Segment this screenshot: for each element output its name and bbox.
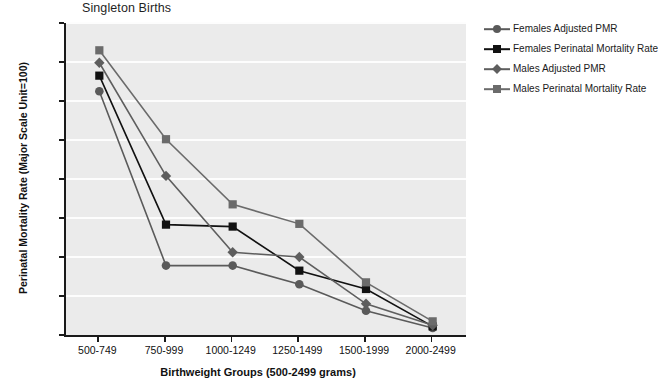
series-line <box>99 91 432 328</box>
y-tick-mark <box>59 139 64 141</box>
data-point-marker <box>229 200 237 208</box>
plot-inner <box>66 23 466 335</box>
legend-item-3[interactable]: Males Perinatal Mortality Rate <box>484 79 649 99</box>
data-point-marker <box>95 72 103 80</box>
x-tick-mark <box>231 336 233 342</box>
series-line <box>99 63 432 325</box>
chart-title: Singleton Births <box>82 1 171 15</box>
gridline <box>66 139 466 141</box>
x-tick-mark <box>431 336 433 342</box>
legend-square-icon <box>493 85 501 93</box>
y-tick-mark <box>59 334 64 336</box>
series-3 <box>95 46 437 325</box>
y-tick-mark <box>59 22 64 24</box>
data-point-marker <box>95 87 104 96</box>
x-tick-mark <box>364 336 366 342</box>
legend-swatch <box>484 42 510 56</box>
data-point-marker <box>295 220 303 228</box>
legend-swatch <box>484 62 510 76</box>
y-tick-mark <box>59 256 64 258</box>
legend-diamond-icon <box>492 64 502 74</box>
series-1 <box>95 72 437 331</box>
gridline <box>66 61 466 63</box>
data-point-marker <box>362 285 370 293</box>
data-point-marker <box>94 58 104 68</box>
data-point-marker <box>162 221 170 229</box>
legend-item-0[interactable]: Females Adjusted PMR <box>484 19 649 39</box>
legend-swatch <box>484 82 510 96</box>
chart-legend: Females Adjusted PMRFemales Perinatal Mo… <box>484 19 649 99</box>
data-point-marker <box>95 46 103 54</box>
legend-label: Females Perinatal Mortality Rate <box>513 44 658 54</box>
x-tick-label: 2000-2499 <box>389 344 473 356</box>
legend-item-1[interactable]: Females Perinatal Mortality Rate <box>484 39 649 59</box>
data-point-marker <box>295 280 304 289</box>
legend-swatch <box>484 22 510 36</box>
x-tick-mark <box>97 336 99 342</box>
x-axis-title: Birthweight Groups (500-2499 grams) <box>48 366 468 378</box>
data-point-marker <box>362 307 371 316</box>
data-point-marker <box>362 278 370 286</box>
series-2 <box>94 58 438 331</box>
y-tick-mark <box>59 178 64 180</box>
data-point-marker <box>228 261 237 270</box>
legend-circle-icon <box>493 25 501 33</box>
y-tick-mark <box>59 217 64 219</box>
gridline <box>66 295 466 297</box>
series-line <box>99 76 432 327</box>
y-axis-title: Perinatal Mortality Rate (Major Scale Un… <box>17 18 29 338</box>
data-point-marker <box>428 324 437 333</box>
legend-label: Males Perinatal Mortality Rate <box>513 84 646 94</box>
x-tick-mark <box>297 336 299 342</box>
data-point-marker <box>427 320 437 330</box>
data-point-marker <box>295 267 303 275</box>
legend-label: Males Adjusted PMR <box>513 64 606 74</box>
data-point-marker <box>429 322 437 330</box>
data-point-marker <box>229 222 237 230</box>
gridline <box>66 22 466 24</box>
data-point-marker <box>361 299 371 309</box>
gridline <box>66 178 466 180</box>
series-line <box>99 50 432 321</box>
gridline <box>66 217 466 219</box>
gridline <box>66 100 466 102</box>
x-tick-mark <box>164 336 166 342</box>
gridline <box>66 256 466 258</box>
y-tick-mark <box>59 61 64 63</box>
y-tick-mark <box>59 100 64 102</box>
legend-label: Females Adjusted PMR <box>513 24 618 34</box>
legend-item-2[interactable]: Males Adjusted PMR <box>484 59 649 79</box>
plot-area <box>64 23 466 337</box>
legend-square-icon <box>493 45 501 53</box>
data-point-marker <box>429 317 437 325</box>
y-tick-mark <box>59 295 64 297</box>
data-point-marker <box>162 261 171 270</box>
